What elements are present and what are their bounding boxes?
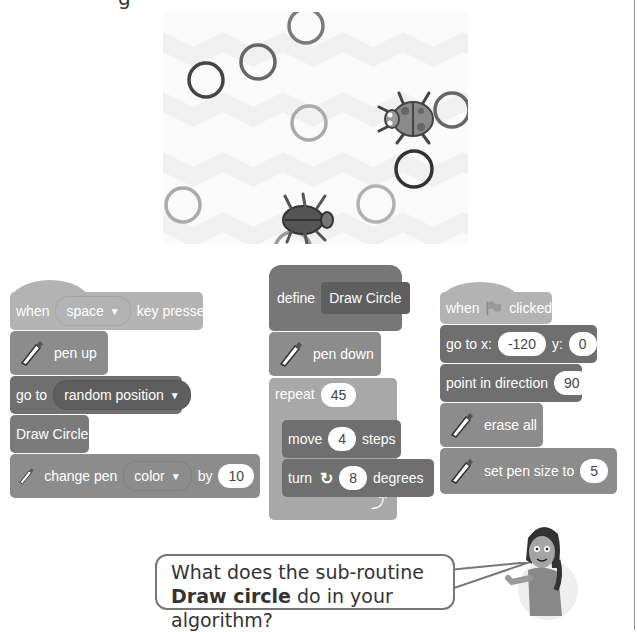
chevron-down-icon: ▼	[110, 306, 120, 317]
speech-bubble: What does the sub-routine Draw circle do…	[155, 554, 455, 610]
block-label: by	[198, 468, 213, 484]
block-label: degrees	[373, 470, 424, 486]
page-edge-divider	[634, 0, 635, 630]
define-block[interactable]: define Draw Circle	[269, 265, 402, 331]
block-label: repeat	[275, 386, 315, 402]
pen-param-dropdown[interactable]: color▼	[123, 461, 191, 491]
block-label: change pen	[44, 468, 117, 484]
block-label: erase all	[484, 417, 537, 433]
green-flag-icon	[485, 298, 503, 318]
turn-degrees-block[interactable]: turn ↻ 8 degrees	[282, 459, 434, 497]
chevron-down-icon: ▼	[170, 390, 180, 401]
x-coordinate-input[interactable]: -120	[498, 332, 546, 356]
direction-input[interactable]: 90	[554, 371, 590, 395]
pen-down-block[interactable]: pen down	[269, 332, 381, 376]
dropdown-value: color	[134, 468, 164, 484]
block-label: set pen size to	[484, 463, 574, 479]
pen-icon	[275, 340, 303, 368]
draw-circle-call-block[interactable]: Draw Circle	[10, 415, 89, 453]
pen-up-block[interactable]: pen up	[10, 331, 108, 375]
erase-all-block[interactable]: erase all	[440, 403, 543, 447]
block-label: when	[446, 300, 479, 316]
move-steps-block[interactable]: move 4 steps	[282, 420, 401, 458]
dropdown-value: random position	[64, 387, 164, 403]
block-label: point in direction	[446, 375, 548, 391]
block-label: go to	[16, 387, 47, 403]
pen-icon	[16, 462, 34, 490]
change-amount-input[interactable]: 10	[218, 464, 254, 488]
bubble-bold-text: Draw circle	[171, 585, 291, 607]
when-flag-clicked-block[interactable]: when clicked	[440, 292, 552, 324]
turn-degrees-input[interactable]: 8	[339, 466, 367, 490]
rotate-clockwise-icon: ↻	[320, 469, 333, 488]
y-coordinate-input[interactable]: 0	[569, 332, 597, 356]
block-label: when	[16, 303, 49, 319]
chevron-down-icon: ▼	[171, 471, 181, 482]
pen-size-input[interactable]: 5	[580, 459, 608, 483]
cut-off-text-fragment: g	[118, 0, 131, 10]
set-pen-size-block[interactable]: set pen size to 5	[440, 448, 617, 494]
pen-icon	[446, 457, 474, 485]
move-steps-input[interactable]: 4	[328, 427, 356, 451]
dropdown-value: space	[66, 303, 103, 319]
when-key-pressed-block[interactable]: when space▼ key pressed	[10, 292, 203, 330]
block-label: pen up	[54, 345, 97, 361]
girl-character-illustration	[500, 520, 580, 626]
go-to-target-dropdown[interactable]: random position▼	[53, 380, 191, 410]
block-label: pen down	[313, 346, 374, 362]
block-label: key pressed	[137, 303, 212, 319]
block-label: steps	[362, 431, 395, 447]
go-to-xy-block[interactable]: go to x: -120 y: 0	[440, 325, 597, 363]
block-label: define	[277, 290, 315, 306]
pen-icon	[446, 411, 474, 439]
block-label: y:	[552, 336, 563, 352]
scratch-stage	[163, 12, 468, 244]
repeat-count-input[interactable]: 45	[321, 383, 357, 407]
point-in-direction-block[interactable]: point in direction 90	[440, 364, 582, 402]
bubble-text: What does the sub-routine	[171, 561, 424, 583]
block-label: move	[288, 431, 322, 447]
block-label: go to x:	[446, 336, 492, 352]
procedure-name-slot: Draw Circle	[321, 282, 409, 314]
block-label: Draw Circle	[16, 426, 88, 442]
block-label: clicked	[509, 300, 552, 316]
change-pen-block[interactable]: change pen color▼ by 10	[10, 454, 260, 498]
pen-icon	[16, 339, 44, 367]
block-label: turn	[288, 470, 312, 486]
key-dropdown[interactable]: space▼	[55, 296, 130, 326]
stage-drawing	[163, 12, 468, 244]
go-to-block[interactable]: go to random position▼	[10, 376, 182, 414]
